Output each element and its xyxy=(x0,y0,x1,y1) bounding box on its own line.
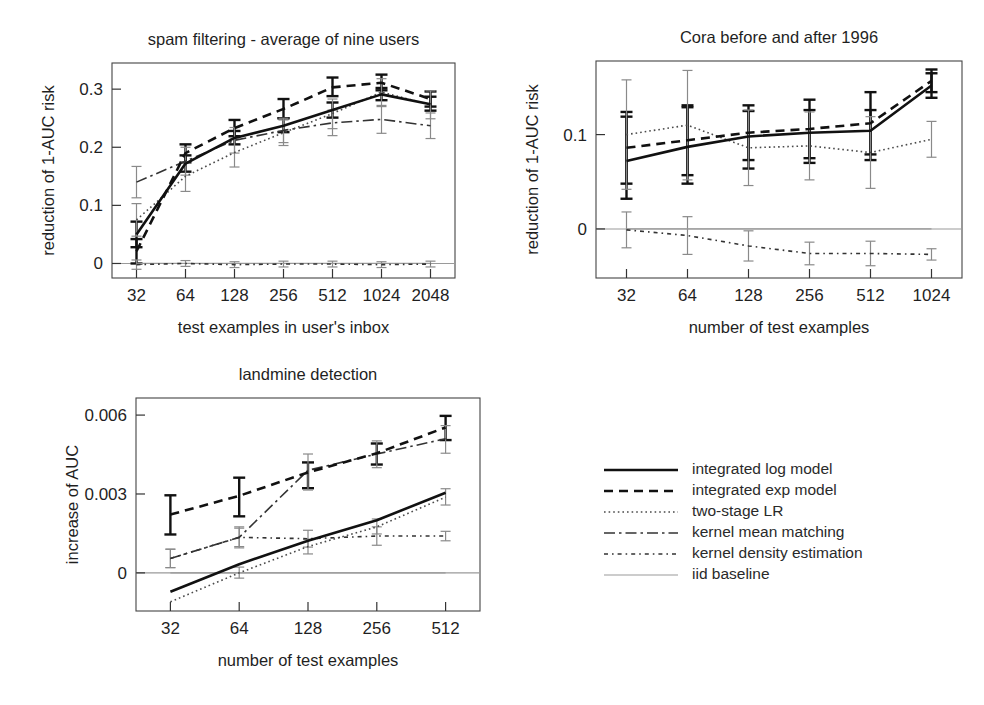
y-tick-label-0-1: 0.1 xyxy=(79,196,103,215)
x-tick-label-64: 64 xyxy=(678,286,697,305)
chart-title-landmine: landmine detection xyxy=(239,365,378,383)
x-tick-label-2048: 2048 xyxy=(412,286,450,305)
y-tick-label-0-003: 0.003 xyxy=(84,485,127,504)
x-tick-label-64: 64 xyxy=(176,286,195,305)
x-axis-label-spam-filtering: test examples in user's inbox xyxy=(178,318,390,336)
figure-root: spam filtering - average of nine users00… xyxy=(0,0,984,705)
y-tick-label-0-1: 0.1 xyxy=(563,126,587,145)
x-tick-label-128: 128 xyxy=(220,286,248,305)
legend-label-iid-baseline: iid baseline xyxy=(692,565,770,582)
chart-title-spam-filtering: spam filtering - average of nine users xyxy=(148,30,419,48)
x-tick-label-1024: 1024 xyxy=(363,286,401,305)
x-tick-label-128: 128 xyxy=(294,619,322,638)
chart-title-cora: Cora before and after 1996 xyxy=(680,28,878,46)
x-axis-label-cora: number of test examples xyxy=(689,318,870,336)
x-tick-label-128: 128 xyxy=(734,286,762,305)
x-tick-label-32: 32 xyxy=(617,286,636,305)
legend-label-kernel-density-estimation: kernel density estimation xyxy=(692,544,863,561)
figure-background xyxy=(0,0,984,705)
y-axis-label-cora: reduction of 1-AUC risk xyxy=(523,83,541,254)
x-tick-label-32: 32 xyxy=(127,286,146,305)
legend-label-two-stage-lr: two-stage LR xyxy=(692,502,783,519)
legend-label-integrated-log-model: integrated log model xyxy=(692,460,832,477)
x-tick-label-256: 256 xyxy=(269,286,297,305)
y-tick-label-0-2: 0.2 xyxy=(79,138,103,157)
x-axis-label-landmine: number of test examples xyxy=(218,651,399,669)
x-tick-label-256: 256 xyxy=(363,619,391,638)
y-tick-label-0: 0 xyxy=(94,254,103,273)
y-tick-label-0-006: 0.006 xyxy=(84,406,127,425)
legend-label-integrated-exp-model: integrated exp model xyxy=(692,481,837,498)
x-tick-label-32: 32 xyxy=(161,619,180,638)
x-tick-label-256: 256 xyxy=(795,286,823,305)
x-tick-label-512: 512 xyxy=(856,286,884,305)
x-tick-label-1024: 1024 xyxy=(913,286,951,305)
y-axis-label-spam-filtering: reduction of 1-AUC risk xyxy=(39,84,57,255)
y-axis-label-landmine: increase of AUC xyxy=(63,445,81,564)
y-tick-label-0-3: 0.3 xyxy=(79,80,103,99)
y-tick-label-0: 0 xyxy=(578,220,587,239)
legend-label-kernel-mean-matching: kernel mean matching xyxy=(692,523,845,540)
y-tick-label-0: 0 xyxy=(118,564,127,583)
x-tick-label-64: 64 xyxy=(230,619,249,638)
x-tick-label-512: 512 xyxy=(431,619,459,638)
x-tick-label-512: 512 xyxy=(318,286,346,305)
